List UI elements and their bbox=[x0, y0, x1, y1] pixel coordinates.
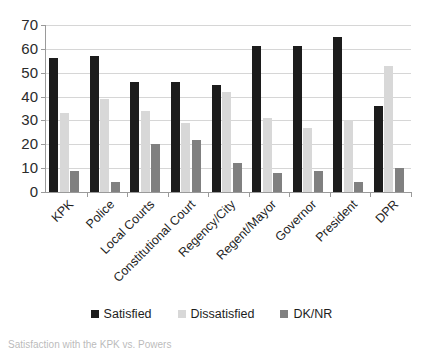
bar-dk-nr-regent-mayor bbox=[273, 173, 282, 192]
legend-item-dk-nr[interactable]: DK/NR bbox=[280, 308, 332, 321]
bar-dk-nr-president bbox=[354, 182, 363, 192]
bar-dissatisfied-dpr bbox=[384, 66, 393, 192]
bar-dissatisfied-constitutional-court bbox=[181, 123, 190, 192]
bar-satisfied-regent-mayor bbox=[252, 46, 261, 192]
bar-satisfied-dpr bbox=[374, 106, 383, 192]
y-tick-label: 20 bbox=[0, 136, 38, 151]
legend-label: DK/NR bbox=[293, 308, 332, 321]
bar-dissatisfied-governor bbox=[303, 128, 312, 192]
bar-dk-nr-local-courts bbox=[151, 144, 160, 192]
y-tick-label: 40 bbox=[0, 89, 38, 104]
x-axis-line bbox=[45, 192, 411, 193]
bar-dissatisfied-regency-city bbox=[222, 92, 231, 192]
bar-dissatisfied-police bbox=[100, 99, 109, 192]
bar-dissatisfied-regent-mayor bbox=[263, 118, 272, 192]
legend-item-dissatisfied[interactable]: Dissatisfied bbox=[178, 308, 255, 321]
plot-area bbox=[46, 25, 411, 192]
figure-container: 010203040506070 KPKPoliceLocal CourtsCon… bbox=[0, 0, 423, 348]
bar-dissatisfied-president bbox=[344, 120, 353, 192]
bar-dk-nr-kpk bbox=[70, 171, 79, 192]
bar-dk-nr-regency-city bbox=[233, 163, 242, 192]
bar-dk-nr-dpr bbox=[395, 168, 404, 192]
bar-satisfied-kpk bbox=[49, 58, 58, 192]
x-axis-label-local-courts: Local Courts bbox=[7, 198, 158, 348]
legend-swatch-dknr bbox=[280, 310, 288, 318]
bar-dk-nr-constitutional-court bbox=[192, 140, 201, 192]
figure-caption: Satisfaction with the KPK vs. Powers bbox=[8, 339, 418, 348]
y-tick-label: 10 bbox=[0, 160, 38, 175]
y-tick-label: 60 bbox=[0, 41, 38, 56]
bar-dissatisfied-local-courts bbox=[141, 111, 150, 192]
legend-swatch-satisfied bbox=[91, 310, 99, 318]
legend-swatch-dissatisfied bbox=[178, 310, 186, 318]
bar-satisfied-local-courts bbox=[130, 82, 139, 192]
chart-legend: SatisfiedDissatisfiedDK/NR bbox=[0, 305, 423, 323]
bar-satisfied-president bbox=[333, 37, 342, 192]
bar-dk-nr-police bbox=[111, 182, 120, 192]
bar-chart: 010203040506070 bbox=[0, 0, 423, 200]
legend-label: Satisfied bbox=[104, 308, 152, 321]
bar-satisfied-constitutional-court bbox=[171, 82, 180, 192]
bar-satisfied-governor bbox=[293, 46, 302, 192]
y-tick-label: 30 bbox=[0, 112, 38, 127]
bar-dk-nr-governor bbox=[314, 171, 323, 192]
bar-satisfied-police bbox=[90, 56, 99, 192]
y-tick-label: 70 bbox=[0, 17, 38, 32]
bar-dissatisfied-kpk bbox=[60, 113, 69, 192]
bar-satisfied-regency-city bbox=[212, 85, 221, 192]
legend-item-satisfied[interactable]: Satisfied bbox=[91, 308, 152, 321]
legend-label: Dissatisfied bbox=[191, 308, 255, 321]
y-tick-label: 50 bbox=[0, 65, 38, 80]
x-axis-labels: KPKPoliceLocal CourtsConstitutional Cour… bbox=[0, 196, 423, 296]
